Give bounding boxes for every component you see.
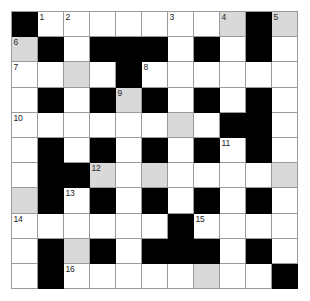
crossword-grid[interactable]: 12345678910111213141516 bbox=[11, 11, 298, 289]
crossword-cell[interactable] bbox=[142, 12, 168, 37]
crossword-cell[interactable] bbox=[168, 264, 194, 289]
crossword-cell[interactable] bbox=[272, 113, 298, 138]
crossword-cell[interactable] bbox=[64, 113, 90, 138]
crossword-cell[interactable] bbox=[246, 214, 272, 239]
crossword-cell[interactable]: 1 bbox=[38, 12, 64, 37]
crossword-cell[interactable] bbox=[90, 113, 116, 138]
crossword-cell[interactable] bbox=[272, 88, 298, 113]
crossword-cell[interactable] bbox=[64, 88, 90, 113]
crossword-cell[interactable] bbox=[12, 163, 38, 188]
crossword-cell[interactable] bbox=[12, 188, 38, 213]
crossword-cell[interactable] bbox=[168, 37, 194, 62]
crossword-cell[interactable] bbox=[12, 88, 38, 113]
crossword-cell[interactable] bbox=[220, 214, 246, 239]
crossword-block-cell bbox=[90, 188, 116, 213]
crossword-cell[interactable] bbox=[90, 62, 116, 87]
crossword-block-cell bbox=[116, 37, 142, 62]
crossword-cell[interactable] bbox=[12, 264, 38, 289]
crossword-cell[interactable] bbox=[168, 163, 194, 188]
crossword-cell[interactable] bbox=[90, 264, 116, 289]
crossword-cell[interactable] bbox=[194, 113, 220, 138]
cell-number: 8 bbox=[144, 62, 149, 72]
crossword-cell[interactable] bbox=[194, 62, 220, 87]
crossword-cell[interactable] bbox=[116, 113, 142, 138]
crossword-cell[interactable] bbox=[220, 37, 246, 62]
cell-number: 1 bbox=[40, 12, 45, 22]
crossword-cell[interactable] bbox=[194, 264, 220, 289]
crossword-cell[interactable] bbox=[90, 12, 116, 37]
crossword-block-cell bbox=[116, 62, 142, 87]
crossword-cell[interactable] bbox=[142, 163, 168, 188]
crossword-cell[interactable] bbox=[168, 188, 194, 213]
crossword-cell[interactable] bbox=[272, 188, 298, 213]
crossword-cell[interactable] bbox=[168, 62, 194, 87]
crossword-cell[interactable] bbox=[246, 163, 272, 188]
cell-number: 9 bbox=[118, 88, 123, 98]
crossword-block-cell bbox=[168, 214, 194, 239]
crossword-cell[interactable]: 11 bbox=[220, 138, 246, 163]
crossword-cell[interactable] bbox=[116, 163, 142, 188]
crossword-cell[interactable]: 16 bbox=[64, 264, 90, 289]
crossword-block-cell bbox=[38, 138, 64, 163]
crossword-block-cell bbox=[64, 163, 90, 188]
crossword-cell[interactable] bbox=[272, 163, 298, 188]
crossword-cell[interactable] bbox=[116, 12, 142, 37]
crossword-cell[interactable]: 5 bbox=[272, 12, 298, 37]
crossword-block-cell bbox=[38, 88, 64, 113]
crossword-cell[interactable] bbox=[116, 264, 142, 289]
crossword-cell[interactable] bbox=[38, 214, 64, 239]
crossword-cell[interactable]: 9 bbox=[116, 88, 142, 113]
crossword-cell[interactable] bbox=[116, 214, 142, 239]
crossword-cell[interactable] bbox=[220, 163, 246, 188]
crossword-cell[interactable]: 13 bbox=[64, 188, 90, 213]
crossword-cell[interactable] bbox=[220, 62, 246, 87]
crossword-cell[interactable] bbox=[168, 113, 194, 138]
crossword-cell[interactable] bbox=[38, 62, 64, 87]
crossword-cell[interactable] bbox=[220, 264, 246, 289]
crossword-cell[interactable] bbox=[142, 113, 168, 138]
crossword-cell[interactable] bbox=[38, 113, 64, 138]
crossword-cell[interactable] bbox=[246, 264, 272, 289]
crossword-cell[interactable] bbox=[116, 239, 142, 264]
crossword-cell[interactable]: 15 bbox=[194, 214, 220, 239]
crossword-cell[interactable] bbox=[194, 12, 220, 37]
crossword-cell[interactable] bbox=[272, 214, 298, 239]
crossword-cell[interactable]: 6 bbox=[12, 37, 38, 62]
crossword-cell[interactable] bbox=[272, 62, 298, 87]
crossword-cell[interactable] bbox=[12, 138, 38, 163]
cell-number: 16 bbox=[66, 264, 75, 274]
crossword-cell[interactable] bbox=[272, 37, 298, 62]
crossword-cell[interactable]: 4 bbox=[220, 12, 246, 37]
crossword-cell[interactable] bbox=[220, 88, 246, 113]
crossword-cell[interactable] bbox=[64, 214, 90, 239]
crossword-cell[interactable] bbox=[12, 239, 38, 264]
crossword-cell[interactable] bbox=[90, 214, 116, 239]
crossword-cell[interactable] bbox=[64, 62, 90, 87]
crossword-cell[interactable] bbox=[194, 163, 220, 188]
crossword-cell[interactable]: 3 bbox=[168, 12, 194, 37]
crossword-cell[interactable]: 10 bbox=[12, 113, 38, 138]
crossword-cell[interactable]: 8 bbox=[142, 62, 168, 87]
crossword-block-cell bbox=[38, 264, 64, 289]
cell-number: 10 bbox=[14, 113, 23, 123]
crossword-cell[interactable] bbox=[220, 239, 246, 264]
crossword-cell[interactable] bbox=[116, 138, 142, 163]
crossword-cell[interactable]: 7 bbox=[12, 62, 38, 87]
crossword-cell[interactable] bbox=[64, 239, 90, 264]
crossword-block-cell bbox=[272, 264, 298, 289]
crossword-cell[interactable] bbox=[220, 188, 246, 213]
crossword-cell[interactable] bbox=[246, 62, 272, 87]
crossword-cell[interactable] bbox=[272, 138, 298, 163]
crossword-cell[interactable]: 12 bbox=[90, 163, 116, 188]
crossword-cell[interactable] bbox=[168, 88, 194, 113]
crossword-cell[interactable] bbox=[142, 264, 168, 289]
crossword-cell[interactable] bbox=[116, 188, 142, 213]
crossword-cell[interactable] bbox=[168, 138, 194, 163]
crossword-cell[interactable]: 2 bbox=[64, 12, 90, 37]
crossword-cell[interactable]: 14 bbox=[12, 214, 38, 239]
crossword-cell[interactable] bbox=[272, 239, 298, 264]
crossword-cell[interactable] bbox=[142, 214, 168, 239]
crossword-cell[interactable] bbox=[64, 37, 90, 62]
crossword-block-cell bbox=[194, 88, 220, 113]
crossword-cell[interactable] bbox=[64, 138, 90, 163]
